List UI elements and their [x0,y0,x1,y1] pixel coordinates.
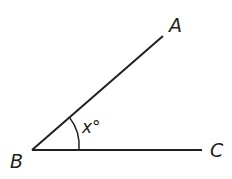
angle-diagram: A B C x° [0,0,232,179]
point-label-c: C [210,139,224,161]
point-label-a: A [167,14,182,36]
angle-label: x° [81,117,101,137]
point-label-b: B [10,150,23,172]
angle-arc [70,117,80,150]
